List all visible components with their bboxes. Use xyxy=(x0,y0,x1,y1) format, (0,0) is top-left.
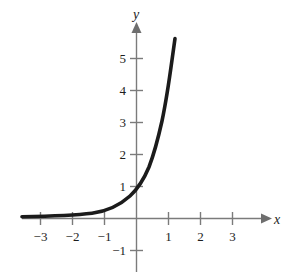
y-tick-label-3: 3 xyxy=(120,115,127,130)
x-tick-label-neg1: −1 xyxy=(98,229,112,244)
x-axis-label: x xyxy=(273,212,281,227)
y-axis-arrow-icon xyxy=(132,22,142,33)
x-tick-label-2: 2 xyxy=(197,229,204,244)
x-axis-arrow-icon xyxy=(261,214,272,224)
y-tick-label-5: 5 xyxy=(120,51,127,66)
x-tick-label-1: 1 xyxy=(165,229,172,244)
figure-container: −3 −2 −1 1 2 3 1 2 3 4 5 −1 x y xyxy=(0,0,291,280)
y-tick-label-2: 2 xyxy=(120,147,127,162)
x-tick-label-3: 3 xyxy=(229,229,236,244)
y-axis-label: y xyxy=(131,7,140,22)
exponential-graph: −3 −2 −1 1 2 3 1 2 3 4 5 −1 x y xyxy=(0,0,291,280)
x-tick-label-neg3: −3 xyxy=(34,229,48,244)
y-tick-label-1: 1 xyxy=(120,179,127,194)
x-tick-label-neg2: −2 xyxy=(66,229,80,244)
y-tick-label-4: 4 xyxy=(120,83,127,98)
exponential-curve xyxy=(22,39,175,217)
y-tick-label-neg1: −1 xyxy=(112,243,126,258)
